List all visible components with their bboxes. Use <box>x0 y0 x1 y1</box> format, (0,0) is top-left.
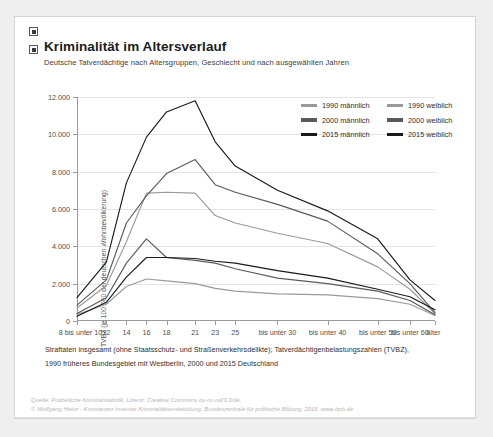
legend-label: 2000 männlich <box>322 116 369 125</box>
x-axis-tick-label: 18 <box>163 328 171 337</box>
x-axis-tick <box>328 321 329 325</box>
x-axis-tick-label: 12 <box>102 328 110 337</box>
x-axis-tick-label: 23 <box>211 328 219 337</box>
legend-label: 2000 weiblich <box>408 116 452 125</box>
legend-item[interactable]: 2000 männlich <box>301 116 387 125</box>
y-axis-tick-label: 10.000 <box>48 130 70 139</box>
series-line <box>77 279 435 315</box>
x-axis-tick-label: bis unter 60 <box>391 328 429 337</box>
legend-label: 1990 weiblich <box>408 101 452 110</box>
y-axis-tick-label: 12.000 <box>48 93 70 102</box>
legend-row: 1990 männlich1990 weiblich <box>301 101 476 110</box>
y-axis-tick-label: 0 <box>66 317 70 326</box>
legend-label: 1990 männlich <box>322 101 369 110</box>
x-axis-tick <box>167 321 168 325</box>
x-axis-tick-label: bis unter 40 <box>309 328 347 337</box>
chart-legend: 1990 männlich1990 weiblich2000 männlich2… <box>301 101 476 145</box>
x-axis-tick <box>146 321 147 325</box>
infographic-page: Kriminalität im Altersverlauf Deutsche T… <box>0 0 493 437</box>
legend-swatch-icon <box>301 118 317 121</box>
legend-row: 2000 männlich2000 weiblich <box>301 116 476 125</box>
x-axis-tick <box>126 321 127 325</box>
x-axis-tick-label: 14 <box>122 328 130 337</box>
footnote-line-2: 1990 früheres Bundesgebiet mit Westberli… <box>45 359 278 368</box>
legend-item[interactable]: 1990 weiblich <box>387 101 473 110</box>
x-axis-tick <box>277 321 278 325</box>
series-line <box>77 258 435 317</box>
footnote-line-1: Straftaten insgesamt (ohne Staatsschutz-… <box>45 345 409 354</box>
x-axis-tick <box>235 321 236 325</box>
legend-item[interactable]: 2015 männlich <box>301 130 387 139</box>
x-axis-tick <box>106 321 107 325</box>
y-axis-tick-label: 4.000 <box>52 242 70 251</box>
y-axis-tick-label: 6.000 <box>52 205 70 214</box>
series-line <box>77 239 435 315</box>
x-axis-tick <box>410 321 411 325</box>
x-axis-tick-label: 25 <box>231 328 239 337</box>
x-axis-tick <box>215 321 216 325</box>
x-axis-tick <box>77 321 78 325</box>
x-axis-tick-label: bis unter 30 <box>259 328 297 337</box>
y-axis-tick-label: 2.000 <box>52 279 70 288</box>
legend-swatch-icon <box>387 133 403 136</box>
legend-item[interactable]: 2015 weiblich <box>387 130 473 139</box>
legend-swatch-icon <box>301 104 317 107</box>
x-axis-tick-label: 21 <box>191 328 199 337</box>
legend-row: 2015 männlich2015 weiblich <box>301 130 476 139</box>
legend-item[interactable]: 1990 männlich <box>301 101 387 110</box>
x-axis-tick <box>195 321 196 325</box>
legend-swatch-icon <box>301 133 317 136</box>
x-axis-tick-label: älter <box>426 328 440 337</box>
y-axis-tick-label: 8.000 <box>52 167 70 176</box>
legend-label: 2015 weiblich <box>408 130 452 139</box>
source-divider <box>15 417 477 418</box>
x-axis-tick <box>378 321 379 325</box>
source-line-2: © Wolfgang Heinz - Konstanzer Inventar K… <box>31 406 353 412</box>
legend-swatch-icon <box>387 118 403 121</box>
series-line <box>77 192 435 313</box>
legend-swatch-icon <box>387 104 403 107</box>
chart-card: Kriminalität im Altersverlauf Deutsche T… <box>14 16 476 419</box>
x-axis-tick-label: 8 bis unter 10 <box>59 328 103 337</box>
legend-item[interactable]: 2000 weiblich <box>387 116 473 125</box>
x-axis-tick <box>435 321 436 325</box>
x-axis-tick-label: 16 <box>142 328 150 337</box>
legend-label: 2015 männlich <box>322 130 369 139</box>
source-line-1: Quelle: Polizeiliche Kriminalstatistik, … <box>31 397 242 403</box>
